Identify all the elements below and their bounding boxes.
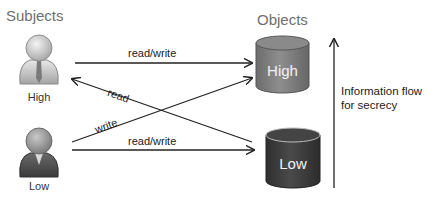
user-icon-low xyxy=(20,128,59,177)
information-flow-line2: for secrecy xyxy=(341,98,422,112)
arrow-label-high-readwrite: read/write xyxy=(128,47,176,59)
subject-low-label: Low xyxy=(14,180,64,192)
object-high-label: High xyxy=(256,62,309,79)
subject-high-label: High xyxy=(14,91,64,103)
user-icon-high xyxy=(20,35,59,84)
subjects-heading: Subjects xyxy=(6,7,64,24)
information-flow-label: Information flow for secrecy xyxy=(341,84,422,112)
objects-heading: Objects xyxy=(257,11,308,28)
arrow-label-low-readwrite: read/write xyxy=(128,135,176,147)
information-flow-line1: Information flow xyxy=(341,84,422,98)
object-low-label: Low xyxy=(266,155,320,172)
